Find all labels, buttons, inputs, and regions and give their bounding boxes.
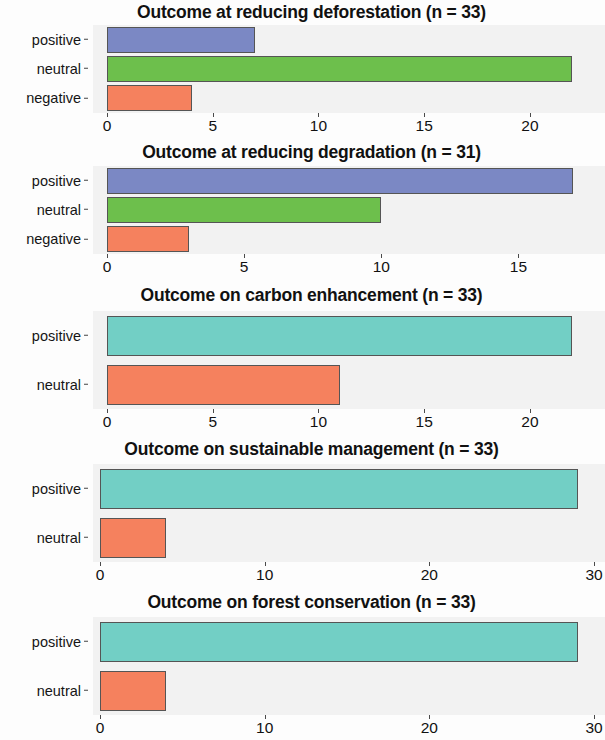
bar-positive (107, 27, 255, 53)
y-tick-label-neutral: neutral (37, 530, 88, 545)
y-axis-labels: positiveneutralnegative (0, 25, 93, 113)
y-tick-mark (84, 689, 88, 690)
y-tick-text: neutral (37, 376, 81, 392)
y-axis-labels: positiveneutralnegative (0, 166, 93, 254)
x-tick-label: 30 (585, 720, 602, 736)
bar-neutral (100, 518, 166, 558)
x-axis: 0102030 (0, 715, 605, 740)
y-tick-label-neutral: neutral (37, 62, 88, 77)
plot-body: positiveneutral (0, 464, 605, 562)
y-tick-text: positive (32, 327, 81, 343)
x-tick-label: 0 (96, 567, 105, 583)
bar-positive (107, 168, 573, 194)
y-tick-text: positive (32, 31, 81, 47)
y-tick-text: neutral (37, 682, 81, 698)
y-tick-label-positive: positive (32, 173, 88, 188)
x-tick-label: 30 (585, 567, 602, 583)
x-tick-label: 15 (510, 259, 527, 275)
plot-body: positiveneutralnegative (0, 25, 605, 113)
y-tick-label-positive: positive (32, 634, 88, 649)
bar-neutral (107, 365, 340, 405)
x-axis: 05101520 (0, 113, 605, 139)
x-tick-label: 10 (256, 567, 273, 583)
y-tick-mark (84, 68, 88, 69)
bar-neutral (107, 197, 381, 223)
x-tick-label: 0 (96, 720, 105, 736)
y-tick-label-positive: positive (32, 328, 88, 343)
y-tick-mark (84, 536, 88, 537)
y-tick-mark (84, 180, 88, 181)
x-tick-label: 20 (421, 567, 438, 583)
bar-negative (107, 226, 189, 252)
y-tick-text: neutral (37, 529, 81, 545)
x-tick-label: 0 (103, 118, 112, 134)
y-tick-mark (84, 334, 88, 335)
bar-neutral (107, 56, 572, 82)
bar-positive (100, 469, 578, 509)
x-tick-label: 0 (103, 259, 112, 275)
plot-body: positiveneutral (0, 617, 605, 715)
bar-neutral (100, 671, 166, 711)
x-tick-label: 10 (256, 720, 273, 736)
y-tick-text: neutral (37, 61, 81, 77)
y-axis-labels: positiveneutral (0, 311, 93, 409)
chart-title: Outcome on carbon enhancement (n = 33) (0, 280, 605, 311)
y-tick-label-negative: negative (26, 232, 88, 247)
x-tick-label: 10 (373, 259, 390, 275)
y-tick-label-positive: positive (32, 32, 88, 47)
x-axis: 05101520 (0, 409, 605, 435)
y-tick-mark (84, 39, 88, 40)
facet-chart-4: Outcome on sustainable management (n = 3… (0, 435, 605, 588)
y-axis-labels: positiveneutral (0, 464, 93, 562)
plot-body: positiveneutral (0, 311, 605, 409)
facet-chart-1: Outcome at reducing deforestation (n = 3… (0, 0, 605, 139)
facet-chart-2: Outcome at reducing degradation (n = 31)… (0, 139, 605, 280)
y-tick-text: neutral (37, 202, 81, 218)
y-tick-mark (84, 640, 88, 641)
plot-panel (93, 617, 605, 715)
chart-title: Outcome at reducing degradation (n = 31) (0, 139, 605, 166)
y-tick-mark (84, 383, 88, 384)
x-tick-label: 20 (521, 118, 538, 134)
y-tick-label-neutral: neutral (37, 683, 88, 698)
plot-panel (93, 464, 605, 562)
plot-panel (93, 166, 605, 254)
plot-panel (93, 25, 605, 113)
x-tick-label: 20 (521, 414, 538, 430)
y-tick-text: positive (32, 633, 81, 649)
x-tick-label: 10 (310, 118, 327, 134)
chart-title: Outcome on sustainable management (n = 3… (0, 435, 605, 464)
bar-positive (100, 622, 578, 662)
y-axis-labels: positiveneutral (0, 617, 93, 715)
x-tick-label: 15 (416, 414, 433, 430)
y-tick-label-neutral: neutral (37, 377, 88, 392)
y-tick-text: positive (32, 480, 81, 496)
chart-title: Outcome on forest conservation (n = 33) (0, 588, 605, 617)
y-tick-mark (84, 209, 88, 210)
x-tick-label: 5 (208, 118, 217, 134)
y-tick-text: negative (26, 90, 81, 106)
x-axis: 0102030 (0, 562, 605, 588)
facet-chart-5: Outcome on forest conservation (n = 33)p… (0, 588, 605, 740)
y-tick-label-negative: negative (26, 91, 88, 106)
facet-chart-3: Outcome on carbon enhancement (n = 33)po… (0, 280, 605, 435)
y-tick-label-neutral: neutral (37, 203, 88, 218)
x-tick-label: 5 (240, 259, 249, 275)
bar-negative (107, 85, 192, 111)
x-tick-label: 0 (103, 414, 112, 430)
x-axis: 051015 (0, 254, 605, 280)
y-tick-mark (84, 238, 88, 239)
plot-body: positiveneutralnegative (0, 166, 605, 254)
chart-title: Outcome at reducing deforestation (n = 3… (0, 0, 605, 25)
x-tick-label: 10 (310, 414, 327, 430)
y-tick-mark (84, 487, 88, 488)
y-tick-label-positive: positive (32, 481, 88, 496)
y-tick-mark (84, 97, 88, 98)
y-tick-text: positive (32, 172, 81, 188)
figure-root: Outcome at reducing deforestation (n = 3… (0, 0, 605, 740)
x-tick-label: 20 (421, 720, 438, 736)
x-tick-label: 15 (416, 118, 433, 134)
x-tick-label: 5 (208, 414, 217, 430)
y-tick-text: negative (26, 231, 81, 247)
plot-panel (93, 311, 605, 409)
